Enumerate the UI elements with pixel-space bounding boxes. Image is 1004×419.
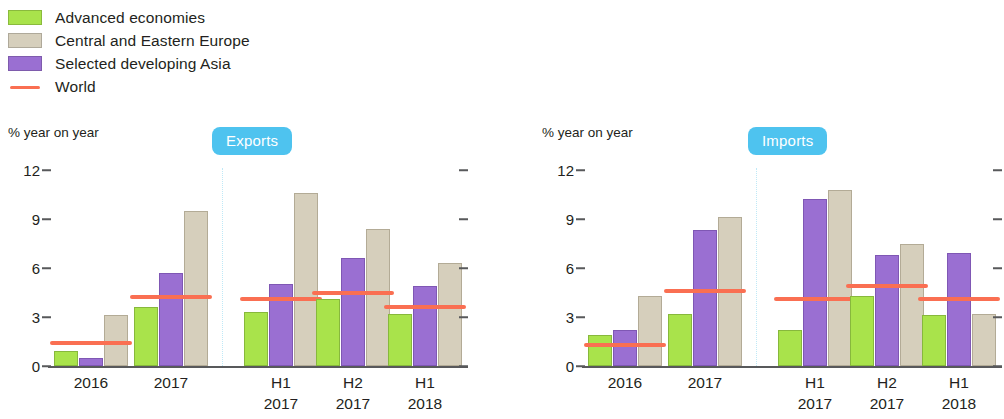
world-marker-imports-h2-2017	[846, 284, 928, 288]
x-axis-line-imports	[582, 366, 1002, 368]
badge-exports: Exports	[212, 127, 292, 155]
right-tick-mark-imports-9	[993, 218, 1002, 220]
bar-imports-2016-adv	[588, 335, 612, 366]
y-axis-labels-exports: 036912	[4, 170, 40, 366]
legend-item-selected-developing-asia: Selected developing Asia	[8, 52, 250, 75]
bar-group-imports-h2-2017	[850, 170, 924, 366]
plot-area-exports: 036912	[4, 170, 474, 366]
bar-exports-h2-2017-adv	[316, 299, 340, 366]
world-marker-exports-2017	[130, 295, 212, 299]
bar-exports-2016-asia	[79, 358, 103, 366]
y-tick-mark-exports-0	[42, 365, 51, 367]
bar-exports-h2-2017-asia	[341, 258, 365, 366]
y-axis-labels-imports: 036912	[538, 170, 574, 366]
y-tick-mark-exports-9	[42, 218, 51, 220]
bar-imports-h1-2018-asia	[947, 253, 971, 366]
bar-imports-2016-cee	[638, 296, 662, 366]
bar-exports-h1-2017-cee	[294, 193, 318, 366]
bar-group-exports-2016	[54, 170, 128, 366]
bar-group-exports-h1-2017	[244, 170, 318, 366]
bar-imports-h2-2017-asia	[875, 255, 899, 366]
legend-swatch-selected-developing-asia	[8, 56, 42, 71]
y-tick-label-exports-12: 12	[23, 162, 40, 179]
bar-exports-h1-2018-cee	[438, 263, 462, 366]
right-tick-mark-imports-3	[993, 316, 1002, 318]
bar-imports-h1-2018-cee	[972, 314, 996, 366]
plot-area-imports: 036912	[538, 170, 1004, 366]
bar-imports-h2-2017-adv	[850, 296, 874, 366]
bar-exports-2017-cee	[184, 211, 208, 366]
bar-exports-h1-2018-asia	[413, 286, 437, 366]
legend-label-world: World	[55, 78, 96, 96]
right-tick-mark-exports-3	[459, 316, 468, 318]
chart-legend: Advanced economies Central and Eastern E…	[8, 6, 250, 98]
right-tick-mark-imports-12	[993, 169, 1002, 171]
y-tick-mark-imports-6	[576, 267, 585, 269]
bar-exports-2016-adv	[54, 351, 78, 366]
bar-imports-2017-adv	[668, 314, 692, 366]
bar-group-imports-2016	[588, 170, 662, 366]
y-axis-title-imports: % year on year	[542, 125, 633, 140]
world-marker-imports-2016	[584, 343, 666, 347]
bar-groups-imports	[582, 170, 1002, 366]
bar-exports-h1-2018-adv	[388, 314, 412, 366]
y-tick-label-imports-6: 6	[566, 260, 574, 277]
x-tick-label-imports-h1-2018: H12018	[910, 372, 1004, 414]
legend-swatch-advanced-economies	[8, 10, 42, 25]
badge-imports: Imports	[748, 127, 827, 155]
right-tick-mark-exports-12	[459, 169, 468, 171]
bar-exports-2017-adv	[134, 307, 158, 366]
bar-imports-h2-2017-cee	[900, 244, 924, 367]
legend-item-advanced-economies: Advanced economies	[8, 6, 250, 29]
bar-group-imports-2017	[668, 170, 742, 366]
y-tick-label-exports-0: 0	[32, 358, 40, 375]
y-tick-mark-exports-3	[42, 316, 51, 318]
y-tick-mark-exports-6	[42, 267, 51, 269]
y-tick-mark-imports-0	[576, 365, 585, 367]
right-tick-mark-exports-0	[459, 365, 468, 367]
right-tick-mark-imports-0	[993, 365, 1002, 367]
section-divider-imports	[756, 168, 757, 366]
bar-group-imports-h1-2017	[778, 170, 852, 366]
right-tick-mark-exports-6	[459, 267, 468, 269]
bar-group-exports-2017	[134, 170, 208, 366]
world-marker-exports-2016	[50, 341, 132, 345]
world-marker-imports-h1-2017	[774, 297, 856, 301]
right-tick-mark-exports-9	[459, 218, 468, 220]
legend-label-central-eastern-europe: Central and Eastern Europe	[55, 32, 250, 50]
section-divider-exports	[222, 168, 223, 366]
world-marker-exports-h1-2017	[240, 297, 322, 301]
y-tick-label-imports-12: 12	[557, 162, 574, 179]
y-tick-mark-imports-12	[576, 169, 585, 171]
y-axis-title-exports: % year on year	[8, 125, 99, 140]
y-tick-label-imports-9: 9	[566, 211, 574, 228]
bar-exports-h2-2017-cee	[366, 229, 390, 366]
y-tick-label-exports-9: 9	[32, 211, 40, 228]
y-tick-label-exports-6: 6	[32, 260, 40, 277]
legend-label-advanced-economies: Advanced economies	[55, 9, 205, 27]
world-marker-exports-h1-2018	[384, 305, 466, 309]
x-tick-label-exports-2017: 2017	[122, 372, 220, 393]
y-tick-mark-imports-9	[576, 218, 585, 220]
world-marker-imports-h1-2018	[918, 297, 1000, 301]
x-axis-line-exports	[48, 366, 468, 368]
x-tick-label-imports-2017: 2017	[656, 372, 754, 393]
right-tick-mark-imports-6	[993, 267, 1002, 269]
bar-exports-h1-2017-adv	[244, 312, 268, 366]
y-tick-mark-exports-12	[42, 169, 51, 171]
chart-panel-imports: % year on year Imports 036912 20162017H1…	[538, 125, 1004, 419]
bar-imports-h1-2017-adv	[778, 330, 802, 366]
bar-imports-2016-asia	[613, 330, 637, 366]
bar-group-imports-h1-2018	[922, 170, 996, 366]
bar-exports-2017-asia	[159, 273, 183, 366]
bar-imports-h1-2017-cee	[828, 190, 852, 366]
bar-imports-h1-2018-adv	[922, 315, 946, 366]
y-tick-label-exports-3: 3	[32, 309, 40, 326]
chart-panel-exports: % year on year Exports 036912 20162017H1…	[4, 125, 474, 419]
bar-groups-exports	[48, 170, 468, 366]
x-axis-labels-exports: 20162017H12017H22017H12018	[48, 372, 468, 419]
world-marker-exports-h2-2017	[312, 291, 394, 295]
x-axis-labels-imports: 20162017H12017H22017H12018	[582, 372, 1002, 419]
bar-group-exports-h1-2018	[388, 170, 462, 366]
bar-imports-2017-asia	[693, 230, 717, 366]
